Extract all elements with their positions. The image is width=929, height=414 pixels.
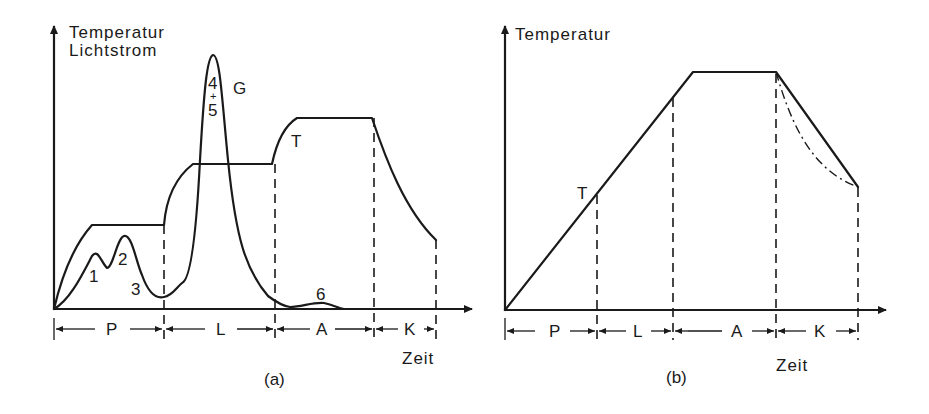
label-G-a: G [233, 79, 246, 98]
label-T-a: T [291, 132, 301, 151]
panel-b: Temperatur T P L A K Z [505, 25, 886, 387]
panel-a: Temperatur Lichtstrom T G 1 2 3 4 + 5 6 [54, 23, 472, 389]
phase-label-A-b: A [731, 322, 743, 341]
phase-label-P-a: P [106, 320, 118, 339]
label-peak-1: 1 [89, 267, 98, 286]
caption-a: (a) [264, 370, 285, 389]
y-axis-label-a-line1: Temperatur [69, 23, 165, 42]
y-axis-label-b: Temperatur [515, 25, 611, 44]
figure: Temperatur Lichtstrom T G 1 2 3 4 + 5 6 [0, 0, 929, 414]
label-T-b: T [577, 184, 587, 203]
x-axis-label-b: Zeit [776, 356, 808, 375]
x-axis-label-a: Zeit [402, 349, 434, 368]
caption-b: (b) [666, 368, 687, 387]
y-axis-label-a-line2: Lichtstrom [69, 41, 157, 60]
label-bump-6: 6 [316, 285, 325, 304]
phase-label-K-b: K [814, 322, 826, 341]
phase-label-A-a: A [316, 320, 328, 339]
temperature-curve-a [54, 118, 436, 309]
phase-label-L-a: L [216, 320, 226, 339]
temperature-curve-b [505, 72, 858, 310]
label-peak-5: 5 [208, 101, 217, 120]
label-peak-2: 2 [118, 250, 127, 269]
phase-label-K-a: K [404, 320, 416, 339]
label-valley-3: 3 [131, 280, 140, 299]
phase-label-L-b: L [633, 322, 643, 341]
phase-label-P-b: P [549, 322, 561, 341]
